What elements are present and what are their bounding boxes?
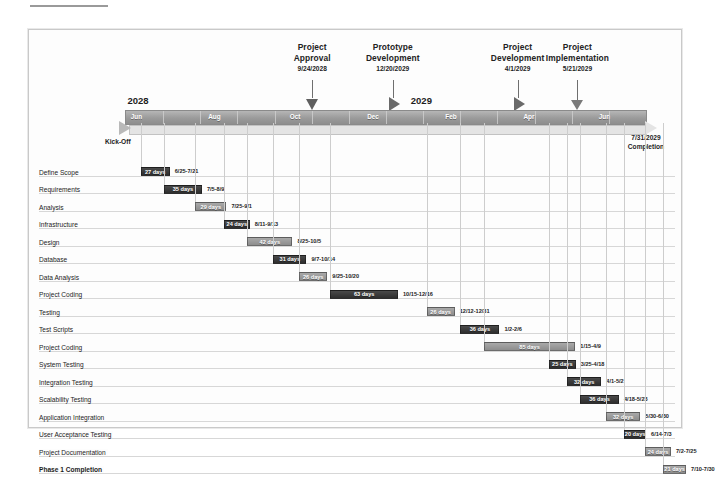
milestone-arrow-icon: [571, 100, 583, 110]
bar-guide-line: [247, 123, 248, 237]
gantt-bar-dates: 8/25-10/5: [297, 238, 321, 244]
top-divider: [30, 5, 108, 7]
axis-tick: [237, 111, 238, 124]
gantt-bar[interactable]: 24 days: [224, 220, 250, 229]
axis-tick: [386, 111, 387, 124]
slide-canvas: ProjectApproval9/24/2028PrototypeDevelop…: [29, 30, 681, 427]
bar-guide-line: [460, 123, 461, 325]
bar-guide-line: [164, 123, 165, 185]
axis-month-jun-6: Jun: [590, 113, 618, 120]
bar-guide-line: [273, 123, 274, 255]
gantt-bar-dates: 6/14-7/3: [651, 431, 672, 437]
gantt-bar[interactable]: 32 days: [567, 377, 601, 386]
table-row[interactable]: Test Scripts36 days1/2-2/6: [29, 321, 681, 339]
gantt-bar-duration: 42 days: [260, 239, 281, 245]
gantt-bar[interactable]: 26 days: [299, 272, 327, 281]
bar-guide-line: [567, 123, 568, 377]
table-row[interactable]: Scalability Testing36 days4/18-5/23: [29, 391, 681, 409]
task-label-project-coding-7: Project Coding: [39, 291, 84, 298]
task-label-project-documentation-16: Project Documentation: [39, 449, 108, 456]
bar-guide-line: [299, 123, 300, 272]
gantt-bar-duration: 27 days: [145, 169, 166, 175]
gantt-bar[interactable]: 35 days: [164, 185, 202, 194]
table-row[interactable]: Define Scope27 days6/25-7/21: [29, 163, 681, 181]
gantt-bar[interactable]: 25 days: [549, 360, 576, 369]
table-row[interactable]: Database31 days9/7-10/14: [29, 251, 681, 269]
table-row[interactable]: Project Documentation24 days7/2-7/25: [29, 443, 681, 461]
gantt-bar-duration: 26 days: [430, 309, 451, 315]
axis-month-aug-1: Aug: [200, 113, 228, 120]
gantt-bar[interactable]: 27 days: [141, 167, 170, 176]
table-row[interactable]: Analysis29 days7/25-9/1: [29, 198, 681, 216]
table-row[interactable]: Testing26 days12/12-12/31: [29, 303, 681, 321]
gantt-bar[interactable]: 36 days: [580, 395, 619, 404]
bar-guide-line: [224, 123, 225, 220]
gantt-bar-dates: 1/15-4/9: [580, 343, 601, 349]
gantt-bar-dates: 7/2-7/25: [676, 448, 697, 454]
gantt-bar[interactable]: 26 days: [427, 307, 455, 316]
axis-month-jun-0: Jun: [122, 113, 150, 120]
task-label-define-scope-0: Define Scope: [39, 169, 81, 176]
milestone-stem: [518, 80, 519, 98]
table-row[interactable]: Design42 days8/25-10/5: [29, 233, 681, 251]
axis-month-apr-5: Apr: [515, 113, 543, 120]
gantt-bar[interactable]: 36 days: [460, 325, 499, 334]
gantt-bar[interactable]: 21 days: [663, 465, 686, 474]
bar-guide-line: [427, 123, 428, 307]
table-row[interactable]: Requirements35 days7/5-8/9: [29, 181, 681, 199]
gantt-bar[interactable]: 32 days: [606, 412, 640, 421]
task-label-requirements-1: Requirements: [39, 186, 82, 193]
task-label-application-integration-14: Application Integration: [39, 414, 106, 421]
gantt-bar[interactable]: 42 days: [247, 237, 292, 246]
task-label-testing-8: Testing: [39, 309, 62, 316]
task-label-design-4: Design: [39, 239, 62, 246]
gantt-bar[interactable]: 29 days: [195, 202, 226, 211]
gantt-bar[interactable]: 31 days: [273, 255, 306, 264]
gantt-bar[interactable]: 85 days: [484, 342, 576, 351]
gantt-bar-duration: 31 days: [280, 256, 301, 262]
year-label-2029: 2029: [411, 95, 432, 106]
axis-tick: [200, 111, 201, 124]
row-leader-line: [39, 473, 675, 474]
milestone-stem: [312, 80, 313, 98]
task-label-user-acceptance-testing-15: User Acceptance Testing: [39, 431, 113, 438]
axis-month-oct-2: Oct: [281, 113, 309, 120]
bar-guide-line: [141, 123, 142, 167]
table-row[interactable]: Integration Testing32 days4/1-5/2: [29, 373, 681, 391]
table-row[interactable]: Data Analysis26 days9/25-10/20: [29, 268, 681, 286]
gantt-bar-duration: 24 days: [648, 449, 669, 455]
gantt-bar-duration: 26 days: [303, 274, 324, 280]
gantt-bar-dates: 4/1-5/2: [606, 378, 623, 384]
task-label-analysis-2: Analysis: [39, 204, 66, 211]
gantt-bar[interactable]: 63 days: [330, 290, 398, 299]
gantt-bar-dates: 9/25-10/20: [332, 273, 359, 279]
gantt-bar-dates: 8/11-9/13: [255, 221, 278, 227]
task-label-scalability-testing-13: Scalability Testing: [39, 396, 93, 403]
milestone-title-line1: Project: [525, 42, 629, 53]
table-row[interactable]: Phase 1 Completion21 days7/10-7/30: [29, 461, 681, 478]
table-row[interactable]: Project Coding85 days1/15-4/9: [29, 338, 681, 356]
milestone-triangle-icon: [306, 99, 318, 110]
table-row[interactable]: User Acceptance Testing20 days6/14-7/3: [29, 426, 681, 444]
gantt-bar-dates: 12/12-12/31: [460, 308, 490, 314]
milestone-stem: [577, 80, 578, 102]
gantt-bar-dates: 5/30-6/30: [645, 413, 669, 419]
table-row[interactable]: Infrastructure24 days8/11-9/13: [29, 216, 681, 234]
gantt-bar-dates: 7/5-8/9: [207, 186, 224, 192]
bar-guide-line: [606, 123, 607, 412]
table-row[interactable]: Project Coding63 days10/15-12/16: [29, 286, 681, 304]
gantt-bar-duration: 35 days: [173, 186, 194, 192]
table-row[interactable]: System Testing25 days3/25-4/18: [29, 356, 681, 374]
bar-guide-line: [549, 123, 550, 360]
gantt-bar[interactable]: 20 days: [624, 430, 646, 439]
gantt-bar[interactable]: 24 days: [645, 447, 671, 456]
axis-month-dec-3: Dec: [359, 113, 387, 120]
kickoff-label: Kick-Off: [105, 138, 131, 145]
table-row[interactable]: Application Integration32 days5/30-6/30: [29, 408, 681, 426]
axis-tick: [275, 111, 276, 124]
row-leader-line: [39, 456, 675, 457]
slide-frame: ProjectApproval9/24/2028PrototypeDevelop…: [28, 29, 682, 428]
milestone-date: 5/21/2029: [525, 65, 629, 72]
gantt-bar-duration: 85 days: [519, 344, 540, 350]
